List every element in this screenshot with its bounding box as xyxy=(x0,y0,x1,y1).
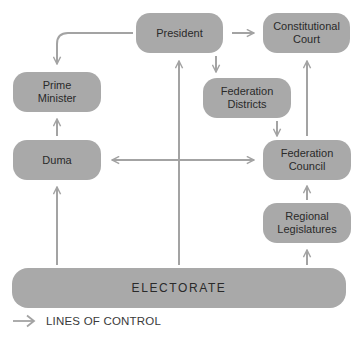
node-label: ELECTORATE xyxy=(132,282,227,295)
node-president: President xyxy=(136,13,223,53)
node-label: Federation Council xyxy=(281,147,334,173)
arrow-president-to-pm xyxy=(57,33,133,64)
arrow-right-icon xyxy=(12,314,36,328)
node-label: Regional Legislatures xyxy=(277,210,336,236)
node-label: President xyxy=(156,27,202,40)
node-regional-legislatures: Regional Legislatures xyxy=(263,203,351,243)
node-label: Constitutional Court xyxy=(273,20,340,46)
node-label: Prime Minister xyxy=(38,79,77,105)
node-federation-districts: Federation Districts xyxy=(203,78,291,118)
node-constitutional-court: Constitutional Court xyxy=(263,13,350,53)
node-electorate: ELECTORATE xyxy=(12,268,346,308)
node-label: Duma xyxy=(42,154,71,167)
node-label: Federation Districts xyxy=(221,85,274,111)
node-duma: Duma xyxy=(13,140,101,180)
legend-label: LINES OF CONTROL xyxy=(46,315,161,327)
legend: LINES OF CONTROL xyxy=(12,314,161,328)
node-federation-council: Federation Council xyxy=(263,140,351,180)
node-prime-minister: Prime Minister xyxy=(13,72,101,112)
